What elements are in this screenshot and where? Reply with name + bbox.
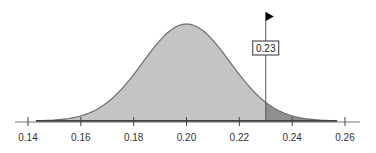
x-tick-label: 0.14: [18, 132, 38, 143]
x-tick-label: 0.18: [124, 132, 144, 143]
normal-distribution-chart: 0.140.160.180.200.220.240.26 0.23: [0, 0, 376, 153]
x-tick-label: 0.26: [335, 132, 355, 143]
x-tick-label: 0.24: [282, 132, 302, 143]
cutoff-value-label: 0.23: [256, 43, 276, 54]
x-tick-label: 0.20: [177, 132, 197, 143]
curve-group: [36, 24, 337, 121]
distribution-body-area: [36, 24, 266, 121]
x-tick-label: 0.16: [71, 132, 91, 143]
x-tick-label: 0.22: [230, 132, 250, 143]
flag-icon[interactable]: [266, 12, 274, 21]
